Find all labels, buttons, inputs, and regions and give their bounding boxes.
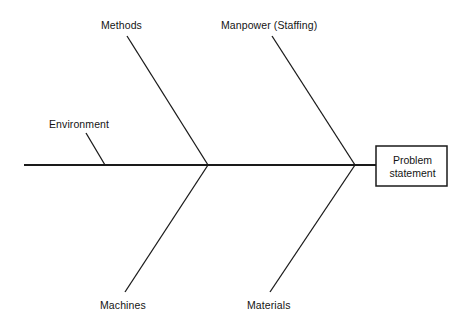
bone-line-machines [125, 165, 208, 292]
category-label-environment: Environment [49, 118, 109, 130]
bone-line-materials [270, 165, 355, 292]
bone-line-environment [86, 133, 105, 165]
bone-line-methods [127, 36, 208, 165]
category-label-materials: Materials [247, 299, 291, 311]
problem-statement-line-2: statement [389, 167, 435, 180]
problem-statement-text: Problem statement [378, 150, 447, 183]
problem-statement-line-1: Problem [393, 154, 432, 167]
fishbone-diagram: Environment Methods Manpower (Staffing) … [0, 0, 468, 329]
category-label-manpower: Manpower (Staffing) [221, 19, 317, 31]
category-label-methods: Methods [101, 19, 142, 31]
category-label-machines: Machines [100, 299, 146, 311]
bone-line-manpower [272, 36, 355, 165]
